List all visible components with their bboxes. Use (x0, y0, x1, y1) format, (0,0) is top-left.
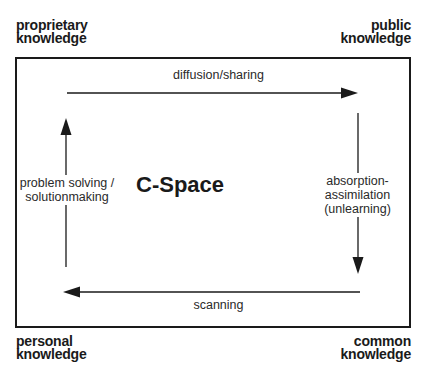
arrow-scanning (63, 287, 360, 298)
corner-label-public-knowledge: public knowledge (340, 19, 411, 45)
flow-label-problem-solving: problem solving / solutionmaking (19, 175, 115, 205)
corner-label-line: knowledge (16, 32, 88, 45)
corner-label-line: knowledge (340, 348, 411, 361)
corner-label-line: knowledge (16, 348, 87, 361)
arrow-problem-solving-head (61, 118, 72, 135)
flow-label-line: (unlearning) (315, 202, 400, 216)
flow-label-absorption-assimilation: absorption- assimilation (unlearning) (315, 173, 400, 217)
corner-label-line: knowledge (340, 32, 411, 45)
arrow-diffusion-sharing (67, 88, 358, 99)
flow-label-line: absorption- (315, 174, 400, 188)
flow-label-diffusion-sharing: diffusion/sharing (0, 68, 425, 82)
flow-label-line: assimilation (315, 188, 400, 202)
flow-label-scanning: scanning (0, 298, 425, 312)
flow-label-line: problem solving / (19, 176, 115, 190)
arrow-scanning-head (63, 287, 80, 298)
arrow-absorption-head (353, 257, 364, 274)
flow-label-text: diffusion/sharing (161, 68, 264, 82)
arrow-diffusion-head (341, 88, 358, 99)
flow-label-line: solutionmaking (19, 190, 115, 204)
corner-label-personal-knowledge: personal knowledge (16, 335, 87, 361)
flow-label-text: scanning (181, 298, 243, 312)
diagram-title: C-Space (136, 172, 224, 198)
corner-label-common-knowledge: common knowledge (340, 335, 411, 361)
corner-label-proprietary-knowledge: proprietary knowledge (16, 19, 88, 45)
